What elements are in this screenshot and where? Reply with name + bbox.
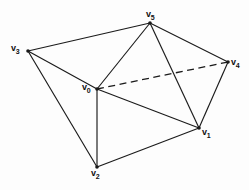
graph-edge-v5-v4	[150, 23, 228, 62]
vertex-label-v4: v4	[231, 58, 240, 69]
graph-vertex-v5[interactable]	[148, 21, 152, 25]
vertex-label-subscript: 4	[236, 62, 240, 69]
vertex-label-v5: v5	[146, 10, 155, 21]
vertex-label-subscript: 1	[207, 132, 211, 139]
vertex-label-subscript: 0	[87, 87, 91, 94]
vertex-label-v1: v1	[202, 128, 211, 139]
graph-edge-v3-v2	[28, 51, 97, 167]
graph-vertex-v0[interactable]	[95, 87, 99, 91]
vertices-layer	[26, 21, 230, 169]
graph-vertex-v3[interactable]	[26, 49, 30, 53]
vertex-label-subscript: 2	[96, 173, 100, 180]
graph-svg	[0, 0, 249, 190]
vertex-label-v0: v0	[82, 83, 91, 94]
graph-vertex-v4[interactable]	[226, 60, 230, 64]
vertex-label-v2: v2	[91, 169, 100, 180]
edges-layer	[28, 23, 228, 167]
vertex-label-subscript: 3	[16, 48, 20, 55]
vertex-label-subscript: 5	[151, 14, 155, 21]
figure-canvas: v0v1v2v3v4v5	[0, 0, 249, 190]
graph-vertex-v1[interactable]	[197, 126, 201, 130]
vertex-label-v3: v3	[11, 44, 20, 55]
graph-edge-v3-v5	[28, 23, 150, 51]
graph-edge-v1-v4	[199, 62, 228, 128]
graph-edge-v0-v4	[97, 62, 228, 89]
graph-edge-v2-v1	[97, 128, 199, 167]
